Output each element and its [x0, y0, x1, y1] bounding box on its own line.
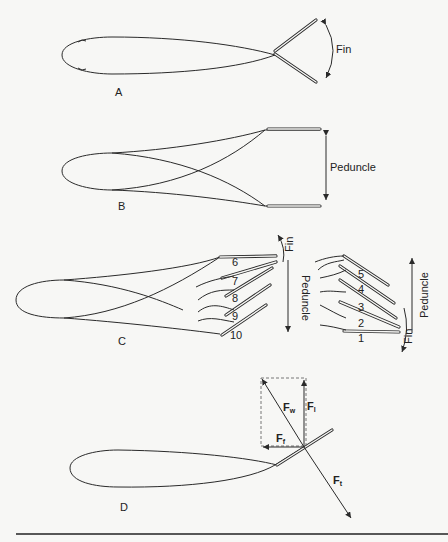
- peduncle-label-b: Peduncle: [330, 161, 376, 173]
- force-w-arrow: [262, 379, 304, 447]
- fish-swimming-diagram: Fin A Peduncle B 6 7 8 9 10 F: [0, 0, 448, 542]
- position-3: 3: [358, 301, 364, 313]
- position-4: 4: [358, 283, 364, 295]
- panel-label-d: D: [120, 501, 128, 513]
- fin-label-c-left: Fin: [283, 237, 295, 252]
- panel-b: Peduncle B: [62, 129, 376, 212]
- position-5: 5: [358, 268, 364, 280]
- fish-body-a: [62, 37, 275, 74]
- panel-c: 6 7 8 9 10 Fin Peduncle 5 4 3 2 1 Pedunc…: [16, 235, 430, 352]
- eye-marker: [78, 40, 86, 42]
- force-t-label: Ft: [333, 474, 343, 487]
- force-f-label: Ff: [276, 432, 286, 445]
- peduncle-label-c-right: Peduncle: [418, 272, 430, 318]
- position-10: 10: [230, 329, 242, 341]
- panel-label-b: B: [118, 200, 125, 212]
- fish-outline-b: [62, 153, 112, 190]
- fin-swing-arrow: [326, 25, 333, 78]
- force-w-label: Fw: [283, 401, 296, 414]
- panel-label-c: C: [118, 335, 126, 347]
- position-9: 9: [232, 310, 238, 322]
- fin-label-c-right: Fin: [402, 329, 414, 344]
- force-l-label: Fl: [307, 400, 316, 413]
- fin-label-a: Fin: [336, 43, 351, 55]
- position-1: 1: [358, 332, 364, 344]
- panel-d: Fw Fl Ff Ft D: [70, 378, 351, 518]
- position-6: 6: [232, 256, 238, 268]
- panel-a: Fin A: [62, 20, 351, 98]
- position-8: 8: [232, 292, 238, 304]
- position-2: 2: [358, 317, 364, 329]
- panel-label-a: A: [115, 86, 123, 98]
- position-7: 7: [232, 275, 238, 287]
- peduncle-label-c-left: Peduncle: [300, 275, 312, 321]
- force-t-arrow: [304, 447, 351, 518]
